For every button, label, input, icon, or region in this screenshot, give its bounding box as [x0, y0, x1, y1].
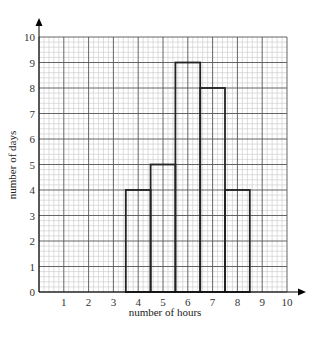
y-tick-label: 2 — [30, 235, 36, 247]
x-tick-label: 7 — [210, 296, 216, 308]
y-tick-label: 3 — [30, 210, 36, 222]
y-tick-label: 10 — [24, 31, 36, 43]
y-tick-labels: 012345678910 — [24, 31, 36, 298]
y-tick-label: 1 — [30, 261, 36, 273]
axes — [36, 18, 307, 296]
histogram-chart: 12345678910 012345678910 number of hours… — [0, 0, 325, 337]
y-tick-label: 8 — [30, 82, 36, 94]
x-axis-label: number of hours — [129, 306, 202, 318]
y-tick-label: 4 — [30, 184, 36, 196]
x-tick-label: 10 — [282, 296, 294, 308]
y-tick-label: 5 — [30, 159, 36, 171]
x-tick-label: 9 — [259, 296, 265, 308]
y-axis-label: number of days — [6, 131, 18, 199]
y-tick-label: 7 — [30, 108, 36, 120]
y-tick-label: 0 — [30, 286, 36, 298]
y-axis-arrow-icon — [36, 18, 43, 26]
x-tick-label: 2 — [86, 296, 92, 308]
x-tick-label: 1 — [61, 296, 67, 308]
x-tick-label: 3 — [111, 296, 117, 308]
x-axis-arrow-icon — [298, 289, 306, 296]
y-tick-label: 9 — [30, 57, 36, 69]
x-tick-label: 8 — [235, 296, 241, 308]
y-tick-label: 6 — [30, 133, 36, 145]
